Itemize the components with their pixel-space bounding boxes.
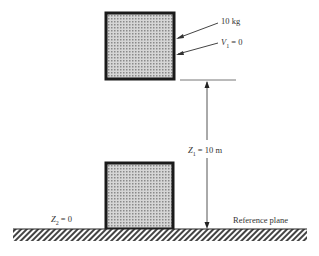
bottom-mass-box (106, 163, 173, 229)
velocity-val: = 0 (229, 37, 242, 47)
reference-plane-label: Reference plane (233, 215, 288, 225)
ground-val: = 0 (59, 214, 72, 224)
ground-height-label: Z2 = 0 (51, 214, 72, 226)
pointer-arrow-velocity (176, 43, 218, 55)
ground-reference-plane (13, 229, 307, 241)
top-mass-box (106, 13, 174, 79)
velocity-label: V1 = 0 (221, 37, 243, 49)
pointer-arrow-mass (176, 23, 218, 39)
height-val: = 10 m (196, 145, 222, 155)
height-label: Z1 = 10 m (188, 145, 222, 157)
mass-label: 10 kg (221, 16, 240, 26)
